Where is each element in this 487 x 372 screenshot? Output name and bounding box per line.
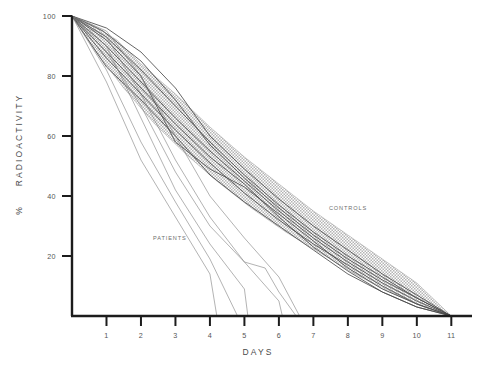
- x-tick-label-10: 10: [412, 331, 421, 340]
- y-tick-label-100: 100: [43, 12, 56, 21]
- x-axis-label: DAYS: [243, 347, 274, 357]
- y-tick-label-80: 80: [47, 72, 56, 81]
- y-axis-label-percent: %: [14, 205, 24, 215]
- x-tick-label-7: 7: [311, 331, 315, 340]
- x-tick-label-1: 1: [104, 331, 108, 340]
- controls-band: [72, 16, 451, 316]
- x-tick-label-8: 8: [346, 331, 350, 340]
- annotation-controls: CONTROLS: [329, 205, 367, 211]
- x-tick-label-11: 11: [447, 331, 455, 340]
- x-tick-label-6: 6: [277, 331, 281, 340]
- x-tick-label-3: 3: [173, 331, 177, 340]
- x-tick-label-9: 9: [380, 331, 384, 340]
- radioactivity-decay-chart: 20406080100 1234567891011 CONTROLS PATIE…: [0, 0, 487, 372]
- y-tick-label-20: 20: [47, 252, 56, 261]
- series-patient-1: [72, 16, 217, 316]
- x-axis-ticks: 1234567891011: [104, 316, 455, 340]
- y-axis-label-word: RADIOACTIVITY: [14, 94, 24, 186]
- chart-canvas: 20406080100 1234567891011 CONTROLS PATIE…: [0, 0, 487, 372]
- y-tick-label-60: 60: [47, 132, 56, 141]
- y-axis-ticks: 20406080100: [43, 12, 72, 261]
- y-tick-label-40: 40: [47, 192, 56, 201]
- annotation-patients: PATIENTS: [153, 235, 187, 241]
- x-tick-label-4: 4: [208, 331, 212, 340]
- x-tick-label-5: 5: [242, 331, 246, 340]
- x-tick-label-2: 2: [139, 331, 143, 340]
